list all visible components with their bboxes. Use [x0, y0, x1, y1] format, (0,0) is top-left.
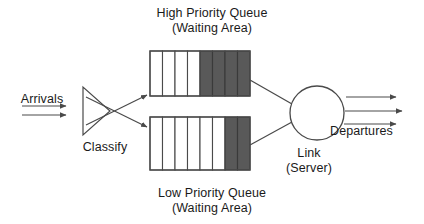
link-low-queue-to-server — [250, 122, 292, 145]
high-queue-cell-2 — [163, 51, 176, 96]
server-label: Link (Server) — [272, 146, 346, 176]
link-high-queue-to-server — [250, 80, 292, 104]
high-queue-cell-3 — [175, 51, 188, 96]
high-queue-cell-7 — [225, 51, 238, 96]
high-queue-cell-1 — [150, 51, 163, 96]
low-priority-queue-label-line2: (Waiting Area) — [0, 201, 424, 216]
high-priority-queue-label-line1: High Priority Queue — [0, 6, 424, 21]
low-queue-cell-3 — [175, 117, 188, 170]
server-label-line1: Link — [272, 146, 346, 161]
high-priority-queue — [150, 51, 250, 96]
arrivals-label: Arrivals — [6, 92, 78, 106]
low-priority-queue-label-line1: Low Priority Queue — [0, 186, 424, 201]
low-queue-cell-2 — [163, 117, 176, 170]
low-priority-queue — [150, 117, 250, 170]
queue-to-server-links — [250, 80, 292, 145]
low-queue-cell-8 — [238, 117, 251, 170]
low-priority-queue-label: Low Priority Queue (Waiting Area) — [0, 186, 424, 216]
departures-label: Departures — [330, 124, 424, 138]
diagram-canvas: High Priority Queue (Waiting Area) Low P… — [0, 0, 424, 224]
high-queue-cell-4 — [188, 51, 201, 96]
low-queue-cell-5 — [200, 117, 213, 170]
low-queue-cell-7 — [225, 117, 238, 170]
high-priority-queue-label: High Priority Queue (Waiting Area) — [0, 6, 424, 36]
high-priority-queue-label-line2: (Waiting Area) — [0, 21, 424, 36]
classifier-triangle — [83, 87, 110, 135]
server-label-line2: (Server) — [272, 161, 346, 176]
low-queue-cell-6 — [213, 117, 226, 170]
high-queue-cell-6 — [213, 51, 226, 96]
classify-label: Classify — [70, 140, 140, 154]
high-queue-cell-5 — [200, 51, 213, 96]
low-queue-cell-1 — [150, 117, 163, 170]
low-queue-cell-4 — [188, 117, 201, 170]
departure-arrows — [344, 97, 402, 124]
high-queue-cell-8 — [238, 51, 251, 96]
arrival-arrows — [22, 106, 66, 115]
